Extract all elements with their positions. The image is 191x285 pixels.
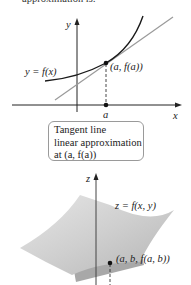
graph-2d: y x y = f(x) (a, f(a)) a	[12, 16, 182, 121]
curve-label: y = f(x)	[24, 66, 57, 78]
surface-point	[108, 261, 113, 266]
graph-3d: z z = f(x, y) (a, b, f(a, b))	[20, 173, 174, 285]
callout-line-2: linear approximation	[54, 137, 143, 150]
callout-box: Tangent line linear approximation at (a,…	[48, 121, 144, 161]
a-point	[104, 103, 109, 108]
surface-label: z = f(x, y)	[114, 200, 156, 212]
surface-point-label: (a, b, f(a, b))	[116, 253, 170, 265]
x-axis-arrow-icon	[175, 103, 182, 108]
tangent-point	[104, 61, 109, 66]
z-axis-label: z	[85, 173, 90, 184]
y-axis-arrow-icon	[75, 18, 80, 25]
a-label: a	[103, 109, 108, 120]
y-axis-label: y	[65, 19, 71, 30]
callout-line-1: Tangent line	[54, 124, 143, 137]
z-axis-arrow-icon	[94, 173, 99, 180]
callout-line-3: at (a, f(a))	[54, 149, 143, 162]
point-label: (a, f(a))	[110, 61, 143, 73]
x-axis-label: x	[172, 110, 178, 121]
